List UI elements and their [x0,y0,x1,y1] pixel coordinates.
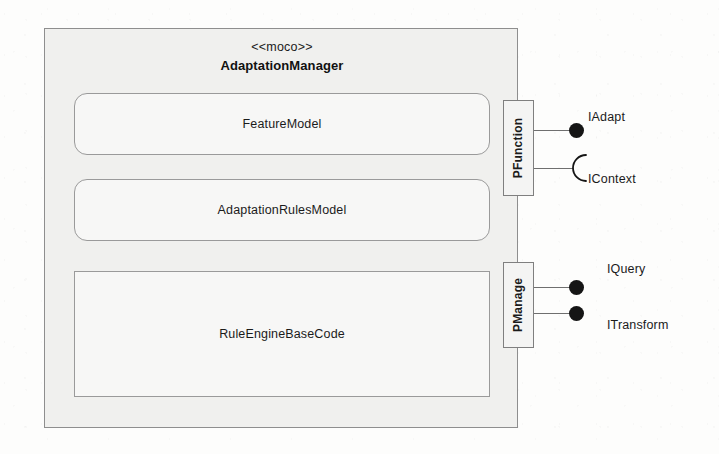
component-stereotype: <<moco>> [45,39,519,56]
port-label: PManage [512,278,526,332]
port-pfunction[interactable]: PFunction [503,100,534,196]
port-label: PFunction [512,118,526,178]
subcomponent-rule-engine-base-code[interactable]: RuleEngineBaseCode [74,271,490,397]
subcomponent-label: FeatureModel [243,117,322,131]
provided-interface-ball-iadapt[interactable] [569,123,584,138]
subcomponent-label: AdaptationRulesModel [218,203,347,217]
subcomponent-adaptation-rules-model[interactable]: AdaptationRulesModel [74,179,490,241]
subcomponent-feature-model[interactable]: FeatureModel [74,93,490,155]
component-name: AdaptationManager [45,57,519,75]
provided-interface-ball-itransform[interactable] [569,306,584,321]
component-adaptation-manager[interactable]: <<moco>> AdaptationManager FeatureModel … [44,28,518,428]
interface-label-icontext: IContext [588,172,636,186]
interface-label-iquery: IQuery [607,262,645,276]
provided-interface-ball-iquery[interactable] [569,280,584,295]
component-header: <<moco>> AdaptationManager [45,39,519,74]
interface-label-itransform: ITransform [607,318,668,332]
interface-label-iadapt: IAdapt [588,110,625,124]
diagram-canvas: <<moco>> AdaptationManager FeatureModel … [0,0,719,454]
subcomponent-label: RuleEngineBaseCode [219,327,345,341]
port-pmanage[interactable]: PManage [503,262,534,348]
